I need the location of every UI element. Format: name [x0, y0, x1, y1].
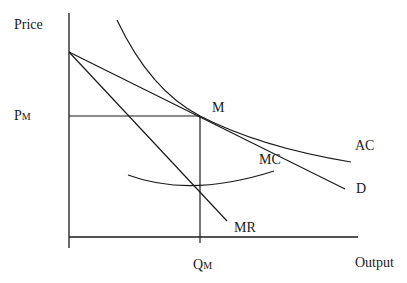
equilibrium-label: M: [212, 101, 224, 115]
quantity-label: QM: [193, 258, 212, 272]
ac-label: AC: [355, 139, 374, 153]
marginal-cost-curve: [128, 171, 274, 186]
price-label-sub: M: [22, 111, 31, 122]
diagram-canvas: [0, 0, 407, 283]
marginal-revenue-curve: [69, 52, 227, 221]
quantity-label-main: Q: [193, 257, 203, 272]
price-label: PM: [14, 109, 31, 123]
mc-label: MC: [259, 153, 281, 167]
x-axis-label: Output: [355, 256, 394, 270]
demand-curve: [69, 52, 345, 189]
demand-label: D: [356, 182, 366, 196]
price-label-main: P: [14, 108, 22, 123]
mr-label: MR: [234, 221, 256, 235]
quantity-label-sub: M: [203, 260, 212, 271]
y-axis-label: Price: [14, 18, 43, 32]
